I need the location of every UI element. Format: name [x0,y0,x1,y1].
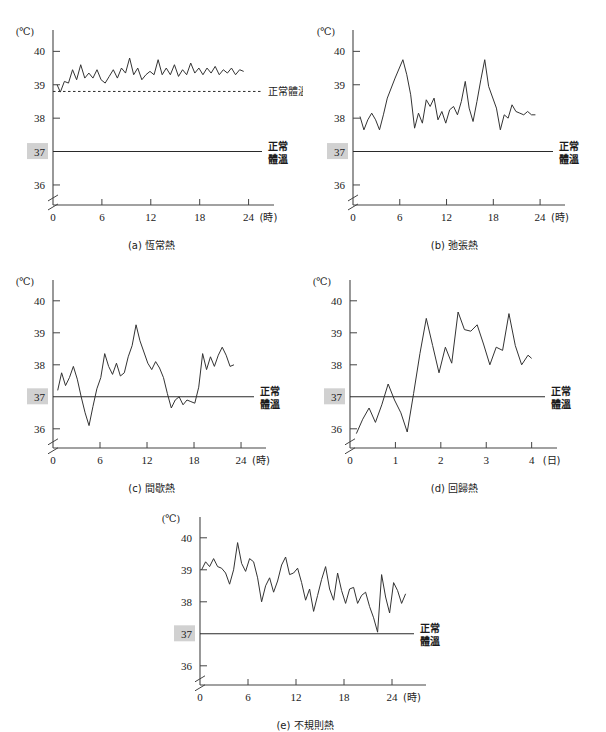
y-tick-label-c-37: 37 [34,391,46,403]
chart-panel-c: (℃)363738394006121824(時)正常體溫(c) 間歇熱 [0,250,303,485]
x-tick-label-a-0: 0 [50,211,56,223]
x-tick-label-e-6: 6 [245,691,251,703]
y-tick-label-e-36: 36 [181,660,193,672]
chart-panel-e: (℃)363738394006121824(時)正常體溫(e) 不規則熱 [140,485,470,732]
y-tick-label-a-37: 37 [34,146,46,158]
y-axis-unit-label-d: (℃) [313,276,331,288]
y-tick-label-a-39: 39 [34,79,46,91]
normal-temp-label-line2-a: 體溫 [268,153,288,165]
x-tick-label-e-0: 0 [197,691,203,703]
temperature-curve-b [360,60,535,130]
x-tick-label-d-3: 3 [483,454,489,466]
x-axis-unit-label-a: (時) [260,212,278,223]
chart-panel-d: (℃)363738394001234(日)正常體溫(d) 回歸熱 [303,250,606,485]
y-tick-label-c-40: 40 [34,295,46,307]
x-axis-unit-label-d: (日) [543,455,561,466]
y-tick-label-c-38: 38 [34,359,46,371]
x-tick-label-c-0: 0 [50,454,56,466]
x-axis-unit-label-e: (時) [403,692,421,703]
y-tick-label-e-38: 38 [181,596,193,608]
y-tick-label-e-37: 37 [181,628,193,640]
x-tick-label-b-12: 12 [441,211,452,223]
fever-curve-chart-a: (℃)363738394006121824(時)正常體溫正常體溫 [0,0,303,250]
normal-temp-label-line2-d: 體溫 [551,398,571,410]
fever-curve-chart-c: (℃)363738394006121824(時)正常體溫 [0,250,303,485]
chart-panel-a: (℃)363738394006121824(時)正常體溫正常體溫(a) 恆常熱 [0,0,303,250]
temperature-curve-c [58,325,234,426]
x-tick-label-c-12: 12 [142,454,153,466]
x-tick-label-b-18: 18 [488,211,500,223]
x-tick-label-d-2: 2 [438,454,444,466]
normal-temp-label-line2-b: 體溫 [559,153,579,165]
temperature-curve-d [356,312,531,434]
normal-temp-label-line1-e: 正常 [420,622,440,634]
x-tick-label-b-6: 6 [397,211,403,223]
y-tick-label-c-39: 39 [34,327,46,339]
normal-temp-label-line1-d: 正常 [551,385,571,397]
y-tick-label-a-40: 40 [34,45,46,57]
x-tick-label-c-6: 6 [97,454,103,466]
temperature-curve-e [202,543,406,633]
x-tick-label-d-1: 1 [393,454,399,466]
fever-curve-chart-e: (℃)363738394006121824(時)正常體溫 [140,485,470,732]
x-tick-label-a-12: 12 [145,211,156,223]
fever-curve-chart-d: (℃)363738394001234(日)正常體溫 [303,250,606,485]
x-tick-label-e-18: 18 [339,691,351,703]
normal-temp-label-line1-a: 正常 [268,140,288,152]
x-tick-label-a-24: 24 [243,211,255,223]
normal-temp-label-line1-c: 正常 [260,385,280,397]
y-tick-label-d-37: 37 [331,391,343,403]
y-axis-unit-label-c: (℃) [16,276,34,288]
normal-temp-label-line2-e: 體溫 [420,635,440,647]
y-tick-label-d-38: 38 [331,359,343,371]
x-tick-label-e-24: 24 [387,691,399,703]
y-tick-label-e-39: 39 [181,564,193,576]
y-tick-label-b-38: 38 [334,112,346,124]
x-tick-label-c-24: 24 [236,454,248,466]
y-tick-label-e-40: 40 [181,532,193,544]
fever-curve-chart-b: (℃)363738394006121824(時)正常體溫 [303,0,606,250]
y-tick-label-a-38: 38 [34,112,46,124]
y-tick-label-b-40: 40 [334,45,346,57]
normal-temp-label-line2-c: 體溫 [260,398,280,410]
y-tick-label-b-39: 39 [334,79,346,91]
y-tick-label-c-36: 36 [34,423,46,435]
x-tick-label-a-6: 6 [99,211,105,223]
x-tick-label-e-12: 12 [291,691,302,703]
chart-panel-b: (℃)363738394006121824(時)正常體溫(b) 弛張熱 [303,0,606,250]
y-axis-unit-label-a: (℃) [16,26,34,38]
x-tick-label-b-24: 24 [535,211,547,223]
y-tick-label-d-40: 40 [331,295,343,307]
panel-caption-e: (e) 不規則熱 [140,717,470,732]
x-axis-unit-label-b: (時) [551,212,569,223]
y-tick-label-b-37: 37 [334,146,346,158]
x-tick-label-c-18: 18 [189,454,201,466]
y-axis-unit-label-e: (℃) [162,513,180,525]
y-tick-label-d-39: 39 [331,327,343,339]
y-tick-label-a-36: 36 [34,179,46,191]
x-tick-label-a-18: 18 [194,211,206,223]
x-tick-label-b-0: 0 [350,211,356,223]
x-axis-unit-label-c: (時) [252,455,270,466]
x-tick-label-d-4: 4 [529,454,535,466]
y-tick-label-b-36: 36 [334,179,346,191]
y-axis-unit-label-b: (℃) [317,26,335,38]
annotation-label-38-8-a: 正常體溫 [268,85,303,97]
x-tick-label-d-0: 0 [347,454,353,466]
normal-temp-label-line1-b: 正常 [559,140,579,152]
y-tick-label-d-36: 36 [331,423,343,435]
temperature-curve-a [57,58,244,92]
